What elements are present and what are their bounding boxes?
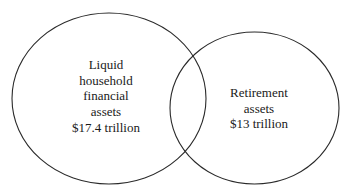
liquid-assets-label: Liquid household financial assets $17.4 … (72, 57, 140, 135)
retirement-label-line: assets (244, 101, 274, 116)
retirement-value: $13 trillion (230, 116, 289, 131)
liquid-label-line: household (79, 73, 133, 88)
liquid-value: $17.4 trillion (72, 120, 140, 135)
retirement-assets-label: Retirement assets $13 trillion (230, 85, 289, 131)
retirement-label-line: Retirement (230, 85, 288, 100)
liquid-label-line: Liquid (89, 57, 124, 72)
liquid-label-line: financial (83, 88, 129, 103)
venn-diagram: Liquid household financial assets $17.4 … (0, 0, 352, 195)
liquid-label-line: assets (91, 104, 121, 119)
